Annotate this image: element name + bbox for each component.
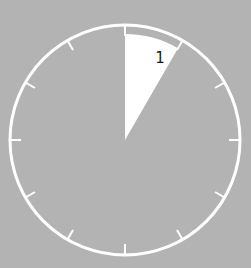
hour-tick <box>68 40 74 50</box>
hour-tick <box>68 230 74 240</box>
clock-diagram: 1 <box>0 0 251 268</box>
hour-tick <box>177 230 183 240</box>
sector-label: 1 <box>155 49 165 67</box>
hour-tick <box>25 83 35 89</box>
hour-tick <box>25 192 35 198</box>
clock-face: 1 <box>10 25 240 255</box>
highlighted-sector <box>125 34 183 140</box>
hour-tick <box>215 192 225 198</box>
hour-tick <box>215 83 225 89</box>
